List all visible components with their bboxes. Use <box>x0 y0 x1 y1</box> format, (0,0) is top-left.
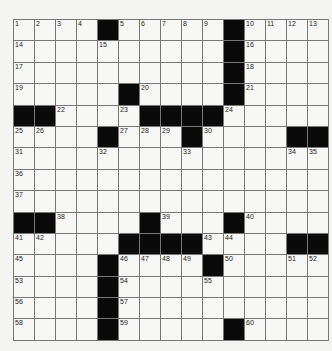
crossword-cell[interactable] <box>140 63 161 84</box>
crossword-cell[interactable] <box>245 191 266 212</box>
crossword-cell[interactable]: 10 <box>245 20 266 41</box>
crossword-cell[interactable]: 41 <box>14 234 35 255</box>
crossword-cell[interactable] <box>266 41 287 62</box>
crossword-cell[interactable]: 43 <box>203 234 224 255</box>
crossword-cell[interactable] <box>56 277 77 298</box>
crossword-cell[interactable] <box>56 170 77 191</box>
crossword-cell[interactable] <box>287 41 308 62</box>
crossword-cell[interactable] <box>245 106 266 127</box>
crossword-cell[interactable]: 14 <box>14 41 35 62</box>
crossword-cell[interactable] <box>35 41 56 62</box>
crossword-cell[interactable] <box>140 298 161 319</box>
crossword-cell[interactable] <box>224 191 245 212</box>
crossword-cell[interactable] <box>266 277 287 298</box>
crossword-cell[interactable]: 17 <box>14 63 35 84</box>
crossword-cell[interactable] <box>287 319 308 340</box>
crossword-cell[interactable]: 40 <box>245 213 266 234</box>
crossword-cell[interactable]: 34 <box>287 148 308 169</box>
crossword-cell[interactable] <box>35 84 56 105</box>
crossword-cell[interactable] <box>308 213 329 234</box>
crossword-cell[interactable] <box>308 277 329 298</box>
crossword-cell[interactable] <box>203 213 224 234</box>
crossword-cell[interactable] <box>77 255 98 276</box>
crossword-cell[interactable] <box>35 63 56 84</box>
crossword-cell[interactable]: 23 <box>119 106 140 127</box>
crossword-cell[interactable]: 45 <box>14 255 35 276</box>
crossword-cell[interactable] <box>56 84 77 105</box>
crossword-cell[interactable] <box>203 63 224 84</box>
crossword-cell[interactable]: 21 <box>245 84 266 105</box>
crossword-cell[interactable] <box>140 191 161 212</box>
crossword-cell[interactable]: 48 <box>161 255 182 276</box>
crossword-cell[interactable] <box>119 63 140 84</box>
crossword-cell[interactable] <box>119 191 140 212</box>
crossword-cell[interactable] <box>56 148 77 169</box>
crossword-cell[interactable]: 38 <box>56 213 77 234</box>
crossword-cell[interactable]: 5 <box>119 20 140 41</box>
crossword-cell[interactable] <box>140 277 161 298</box>
crossword-cell[interactable]: 33 <box>182 148 203 169</box>
crossword-cell[interactable] <box>161 84 182 105</box>
crossword-cell[interactable]: 36 <box>14 170 35 191</box>
crossword-cell[interactable]: 49 <box>182 255 203 276</box>
crossword-cell[interactable]: 42 <box>35 234 56 255</box>
crossword-cell[interactable] <box>77 191 98 212</box>
crossword-cell[interactable] <box>119 213 140 234</box>
crossword-cell[interactable]: 24 <box>224 106 245 127</box>
crossword-cell[interactable] <box>98 63 119 84</box>
crossword-cell[interactable] <box>56 319 77 340</box>
crossword-cell[interactable] <box>245 234 266 255</box>
crossword-cell[interactable] <box>56 255 77 276</box>
crossword-cell[interactable] <box>182 191 203 212</box>
crossword-cell[interactable] <box>308 298 329 319</box>
crossword-cell[interactable] <box>98 191 119 212</box>
crossword-cell[interactable] <box>224 170 245 191</box>
crossword-cell[interactable] <box>245 127 266 148</box>
crossword-cell[interactable] <box>245 298 266 319</box>
crossword-cell[interactable] <box>224 277 245 298</box>
crossword-cell[interactable] <box>287 106 308 127</box>
crossword-cell[interactable] <box>56 41 77 62</box>
crossword-cell[interactable] <box>161 191 182 212</box>
crossword-cell[interactable] <box>35 255 56 276</box>
crossword-cell[interactable]: 32 <box>98 148 119 169</box>
crossword-cell[interactable] <box>56 191 77 212</box>
crossword-cell[interactable] <box>308 191 329 212</box>
crossword-cell[interactable] <box>266 234 287 255</box>
crossword-cell[interactable] <box>77 170 98 191</box>
crossword-cell[interactable] <box>224 298 245 319</box>
crossword-cell[interactable] <box>77 148 98 169</box>
crossword-cell[interactable]: 18 <box>245 63 266 84</box>
crossword-cell[interactable] <box>287 170 308 191</box>
crossword-cell[interactable] <box>287 63 308 84</box>
crossword-cell[interactable] <box>140 41 161 62</box>
crossword-cell[interactable] <box>77 127 98 148</box>
crossword-cell[interactable] <box>119 148 140 169</box>
crossword-cell[interactable] <box>308 319 329 340</box>
crossword-cell[interactable] <box>203 41 224 62</box>
crossword-cell[interactable] <box>266 319 287 340</box>
crossword-cell[interactable]: 60 <box>245 319 266 340</box>
crossword-cell[interactable] <box>203 84 224 105</box>
crossword-cell[interactable] <box>266 255 287 276</box>
crossword-cell[interactable] <box>161 148 182 169</box>
crossword-cell[interactable] <box>161 298 182 319</box>
crossword-cell[interactable] <box>245 255 266 276</box>
crossword-cell[interactable]: 44 <box>224 234 245 255</box>
crossword-cell[interactable]: 26 <box>35 127 56 148</box>
crossword-cell[interactable]: 22 <box>56 106 77 127</box>
crossword-cell[interactable] <box>56 298 77 319</box>
crossword-cell[interactable]: 46 <box>119 255 140 276</box>
crossword-cell[interactable]: 25 <box>14 127 35 148</box>
crossword-cell[interactable] <box>287 277 308 298</box>
crossword-cell[interactable] <box>308 41 329 62</box>
crossword-cell[interactable] <box>56 63 77 84</box>
crossword-cell[interactable] <box>266 170 287 191</box>
crossword-cell[interactable] <box>161 63 182 84</box>
crossword-cell[interactable] <box>266 298 287 319</box>
crossword-cell[interactable]: 9 <box>203 20 224 41</box>
crossword-cell[interactable]: 57 <box>119 298 140 319</box>
crossword-cell[interactable] <box>245 148 266 169</box>
crossword-cell[interactable] <box>266 84 287 105</box>
crossword-cell[interactable]: 6 <box>140 20 161 41</box>
